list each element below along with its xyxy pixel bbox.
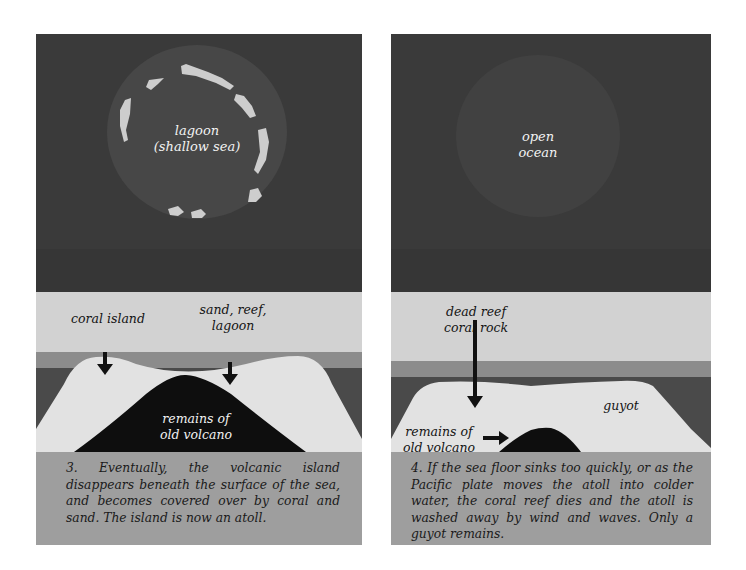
caption-band: 3. Eventually, the volcanic island disap… — [36, 452, 362, 545]
coral-island-label: coral island — [68, 311, 148, 327]
guyot-label: guyot — [591, 398, 651, 414]
surface-water — [391, 361, 711, 377]
open-ocean-label: open ocean — [488, 129, 588, 161]
sand-reef-lagoon-label: sand, reef, lagoon — [188, 302, 278, 334]
diagram-panel-guyot: open ocean dead reef coral rock guyot re… — [391, 34, 711, 545]
caption-text: 4. If the sea floor sinks too quickly, o… — [411, 460, 693, 543]
dead-reef-label: dead reef coral rock — [431, 304, 521, 336]
caption-text: 3. Eventually, the volcanic island disap… — [66, 460, 340, 526]
caption-band: 4. If the sea floor sinks too quickly, o… — [391, 452, 711, 545]
lagoon-label: lagoon (shallow sea) — [147, 123, 247, 155]
diagram-panel-atoll: lagoon (shallow sea) coral island sand, … — [36, 34, 362, 545]
volcano-remains-label: remains of old volcano — [146, 411, 246, 443]
